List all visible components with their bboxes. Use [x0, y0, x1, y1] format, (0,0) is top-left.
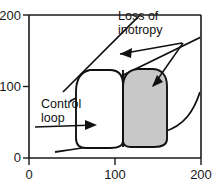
x-tick-label-0: 0 [25, 167, 32, 182]
chart-canvas: 200 100 0 0 100 200 Loss of inotropy [0, 0, 220, 185]
y-tick-label-200: 200 [0, 8, 21, 23]
y-tick-label-100: 100 [0, 79, 21, 94]
control-loop-label-line1: Control [41, 97, 81, 111]
loss-of-inotropy-label-line2: inotropy [118, 23, 163, 37]
control-loop-path [76, 70, 123, 148]
pv-loop-chart: 200 100 0 0 100 200 Loss of inotropy [0, 0, 220, 185]
control-loop-label-line2: loop [41, 111, 65, 125]
loss-of-inotropy-label-line1: Loss of [118, 9, 159, 23]
x-tick-label-100: 100 [104, 167, 126, 182]
x-tick-label-200: 200 [190, 167, 212, 182]
y-tick-label-0: 0 [14, 150, 21, 165]
